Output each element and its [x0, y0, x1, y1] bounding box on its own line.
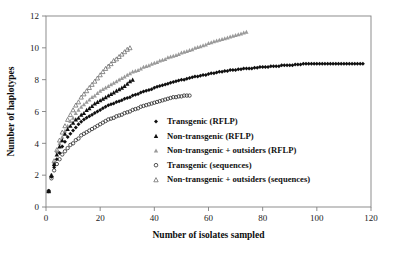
y-tick-label: 0: [35, 202, 40, 212]
x-tick-label: 60: [204, 213, 214, 223]
y-tick-label: 4: [35, 139, 40, 149]
series-points: [47, 77, 135, 193]
x-tick-label: 80: [258, 213, 268, 223]
legend-item[interactable]: Transgenic (sequences): [154, 160, 252, 170]
legend-label: Transgenic (RFLP): [167, 116, 238, 126]
y-tick-label: 8: [35, 75, 40, 85]
legend-item[interactable]: Non-transgenic + outsiders (RFLP): [154, 145, 297, 155]
x-tick-label: 0: [44, 213, 49, 223]
y-axis-title: Number of haplotypes: [6, 66, 16, 156]
legend-label: Non-transgenic + outsiders (sequences): [167, 174, 310, 184]
y-axis: 024681012: [30, 11, 46, 212]
y-tick-label: 2: [35, 170, 40, 180]
x-axis-title: Number of isolates sampled: [153, 230, 266, 240]
x-axis: 020406080100120: [44, 207, 379, 223]
rarefaction-chart: 024681012020406080100120Number of isolat…: [0, 0, 393, 254]
y-tick-label: 10: [30, 43, 40, 53]
legend-item[interactable]: Non-transgenic + outsiders (sequences): [154, 174, 310, 184]
x-tick-label: 120: [364, 213, 378, 223]
x-tick-label: 40: [150, 213, 160, 223]
legend: Transgenic (RFLP)Non-transgenic (RFLP)No…: [154, 116, 310, 184]
legend-label: Non-transgenic (RFLP): [167, 131, 254, 141]
y-tick-label: 6: [35, 107, 40, 117]
legend-item[interactable]: Transgenic (RFLP): [154, 116, 238, 126]
chart-canvas: 024681012020406080100120Number of isolat…: [0, 0, 393, 254]
legend-item[interactable]: Non-transgenic (RFLP): [154, 131, 254, 141]
legend-label: Transgenic (sequences): [167, 160, 252, 170]
series-points: [47, 62, 365, 193]
x-tick-label: 100: [310, 213, 324, 223]
x-tick-label: 20: [96, 213, 106, 223]
series-points: [47, 46, 132, 193]
y-tick-label: 12: [30, 11, 39, 21]
legend-label: Non-transgenic + outsiders (RFLP): [167, 145, 296, 155]
